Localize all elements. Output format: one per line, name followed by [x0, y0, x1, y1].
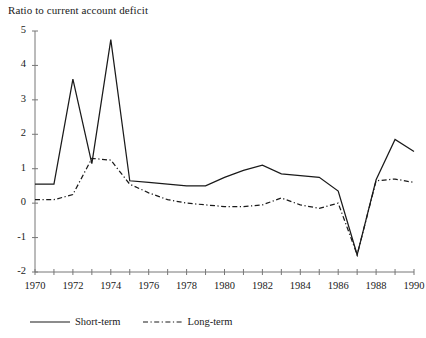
x-tick-label: 1982	[245, 280, 279, 291]
legend-label-long-term: Long-term	[188, 316, 233, 327]
series-lines	[35, 40, 414, 255]
legend-item-short-term: Short-term	[30, 316, 121, 327]
x-tick-label: 1988	[359, 280, 393, 291]
x-axis-ticks	[35, 269, 414, 275]
chart-figure: Ratio to current account deficit 543210-…	[0, 0, 426, 338]
series-line-short-term	[35, 40, 414, 255]
x-tick-label: 1974	[94, 280, 128, 291]
y-tick-label: 5	[4, 24, 26, 35]
y-tick-label: 1	[4, 162, 26, 173]
legend-label-short-term: Short-term	[75, 316, 121, 327]
legend-swatch-short-term	[30, 318, 70, 326]
x-tick-label: 1990	[397, 280, 426, 291]
y-tick-label: -1	[4, 231, 26, 242]
x-tick-label: 1972	[56, 280, 90, 291]
x-tick-label: 1984	[283, 280, 317, 291]
x-tick-label: 1986	[321, 280, 355, 291]
y-tick-label: 4	[4, 58, 26, 69]
series-line-long-term	[35, 158, 414, 254]
x-tick-label: 1976	[132, 280, 166, 291]
chart-legend: Short-term Long-term	[30, 316, 248, 327]
axis-lines	[35, 31, 414, 272]
y-tick-label: 3	[4, 93, 26, 104]
chart-title: Ratio to current account deficit	[8, 4, 148, 16]
x-tick-label: 1980	[208, 280, 242, 291]
y-tick-label: 2	[4, 127, 26, 138]
y-tick-label: -2	[4, 265, 26, 276]
x-tick-label: 1970	[18, 280, 52, 291]
x-tick-label: 1978	[170, 280, 204, 291]
y-tick-label: 0	[4, 196, 26, 207]
legend-swatch-long-term	[143, 318, 183, 326]
legend-item-long-term: Long-term	[143, 316, 233, 327]
